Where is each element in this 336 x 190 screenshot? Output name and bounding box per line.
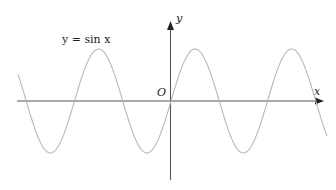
sine-graph: y = sin x y x O <box>0 0 336 190</box>
y-axis-label: y <box>175 12 183 25</box>
y-axis-arrow-icon <box>167 21 174 30</box>
x-axis-label: x <box>314 85 321 98</box>
equation-label: y = sin x <box>61 33 111 46</box>
origin-label: O <box>157 86 166 99</box>
